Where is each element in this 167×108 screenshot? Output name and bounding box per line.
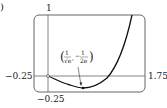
min-point-annotation: ( 1 √e , − 1 2e ) bbox=[60, 49, 94, 64]
svg-text:2e: 2e bbox=[80, 57, 88, 64]
svg-text:√e: √e bbox=[64, 57, 72, 64]
x-min-label: −0.25 bbox=[5, 71, 33, 81]
plot-area: ( 1 √e , − 1 2e ) bbox=[0, 0, 167, 108]
svg-text:1: 1 bbox=[65, 49, 69, 56]
y-max-label: 1 bbox=[46, 3, 52, 13]
x-max-label: 1.75 bbox=[148, 71, 167, 81]
svg-text:,: , bbox=[72, 54, 74, 61]
svg-text:): ) bbox=[89, 50, 94, 64]
y-min-label: −0.25 bbox=[37, 94, 65, 104]
minimum-point bbox=[82, 87, 85, 90]
arrow-head-icon bbox=[80, 82, 83, 86]
svg-text:1: 1 bbox=[81, 49, 85, 56]
origin-open-point bbox=[47, 75, 50, 78]
